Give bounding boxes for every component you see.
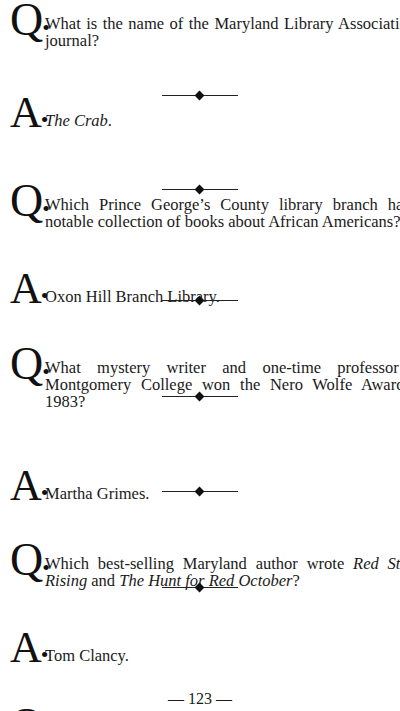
- text-run: Martha Grimes.: [45, 484, 149, 503]
- section-divider: [162, 296, 238, 306]
- diamond-ornament-icon: [195, 91, 205, 101]
- answer-4: A•Tom Clancy.: [10, 638, 400, 664]
- question-text: What is the name of the Maryland Library…: [45, 4, 400, 49]
- diamond-ornament-icon: [195, 583, 205, 593]
- text-run: ?: [292, 571, 299, 590]
- diamond-ornament-icon: [195, 487, 205, 497]
- page-number: — 123 —: [0, 690, 400, 708]
- section-divider: [162, 91, 238, 101]
- diamond-ornament-icon: [195, 185, 205, 195]
- answer-marker: A•: [10, 466, 48, 513]
- answer-marker: A•: [10, 93, 48, 140]
- answer-1: A•The Crab.: [10, 103, 400, 129]
- section-divider: [162, 487, 238, 497]
- text-run: Which Prince George’s County library bra…: [45, 195, 400, 231]
- question-marker: Q•: [10, 0, 50, 48]
- text-run: What mystery writer and one-time profess…: [45, 358, 400, 411]
- text-run: Tom Clancy.: [45, 646, 129, 665]
- text-run: What is the name of the Maryland Library…: [45, 14, 400, 50]
- answer-text: The Crab.: [45, 103, 400, 129]
- section-divider: [162, 392, 238, 402]
- question-marker: Q•: [10, 181, 50, 229]
- diamond-ornament-icon: [195, 392, 205, 402]
- answer-marker: A•: [10, 269, 48, 316]
- diamond-ornament-icon: [195, 296, 205, 306]
- question-1: Q•What is the name of the Maryland Libra…: [10, 4, 400, 49]
- answer-text: Tom Clancy.: [45, 638, 400, 664]
- answer-marker: A•: [10, 628, 48, 675]
- question-marker: Q•: [10, 540, 50, 588]
- book-page: Q•What is the name of the Maryland Libra…: [0, 0, 400, 711]
- text-run: .: [108, 111, 112, 130]
- section-divider: [162, 185, 238, 195]
- italic-title: The Crab: [45, 111, 108, 130]
- question-marker: Q•: [10, 344, 50, 392]
- section-divider: [162, 583, 238, 593]
- text-run: and: [87, 571, 119, 590]
